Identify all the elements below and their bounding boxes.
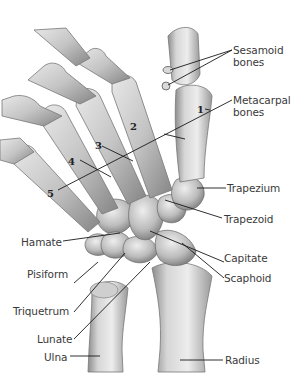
- radius-bone: [152, 262, 212, 372]
- label-radius: Radius: [225, 354, 260, 366]
- metacarpal-number-1: 1: [197, 105, 204, 115]
- metacarpal-number-4: 4: [68, 157, 75, 167]
- metacarpal-number-2: 2: [130, 122, 137, 132]
- metacarpal-number-5: 5: [47, 189, 54, 199]
- label-pisiform: Pisiform: [27, 268, 68, 280]
- ulna-bone: [88, 281, 128, 372]
- label-ulna: Ulna: [44, 351, 67, 363]
- label-scaphoid: Scaphoid: [224, 272, 271, 284]
- label-hamate: Hamate: [21, 236, 62, 248]
- label-trapezium: Trapezium: [227, 182, 280, 194]
- label-lunate: Lunate: [37, 333, 72, 345]
- label-capitate: Capitate: [224, 252, 268, 264]
- label-triquetrum: Triquetrum: [13, 305, 69, 317]
- metacarpal-number-3: 3: [95, 141, 102, 151]
- label-trapezoid: Trapezoid: [224, 213, 273, 225]
- label-metacarpal-bones: Metacarpal bones: [233, 94, 291, 118]
- hand-wrist-bones-diagram: 1 2 3 4 5 Sesamoid bones Metacarpal bone…: [0, 0, 300, 380]
- label-sesamoid-bones: Sesamoid bones: [233, 44, 283, 68]
